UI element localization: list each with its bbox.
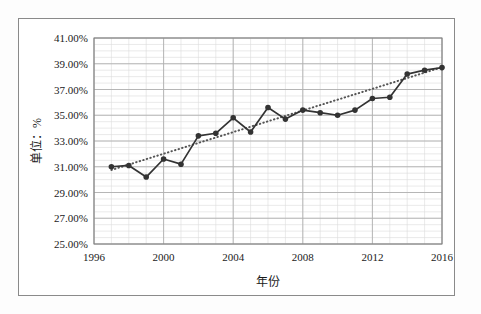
line-chart: 25.00%27.00%29.00%31.00%33.00%35.00%37.0… <box>19 19 454 295</box>
y-axis-title: 单位：% <box>29 118 44 164</box>
y-tick-label: 25.00% <box>54 238 88 250</box>
y-tick-label: 41.00% <box>54 32 88 44</box>
trendline-series <box>111 67 442 170</box>
x-tick-label: 2016 <box>431 251 454 263</box>
y-tick-label: 33.00% <box>54 135 88 147</box>
y-tick-label: 39.00% <box>54 58 88 70</box>
y-tick-label: 35.00% <box>54 109 88 121</box>
x-tick-label: 2000 <box>153 251 176 263</box>
data-series-line <box>111 68 442 177</box>
chart-figure: 25.00%27.00%29.00%31.00%33.00%35.00%37.0… <box>0 0 481 314</box>
x-tick-label: 2012 <box>361 251 383 263</box>
chart-frame: 25.00%27.00%29.00%31.00%33.00%35.00%37.0… <box>18 18 455 296</box>
x-axis-title: 年份 <box>256 275 280 289</box>
y-tick-label: 27.00% <box>54 212 88 224</box>
y-tick-label: 37.00% <box>54 84 88 96</box>
x-tick-label: 1996 <box>83 251 106 263</box>
x-tick-label: 2004 <box>222 251 245 263</box>
x-axis-tick-labels: 199620002004200820122016 <box>83 251 454 263</box>
y-tick-label: 29.00% <box>54 187 88 199</box>
y-tick-label: 31.00% <box>54 161 88 173</box>
y-axis-tick-labels: 25.00%27.00%29.00%31.00%33.00%35.00%37.0… <box>54 32 88 250</box>
x-tick-label: 2008 <box>292 251 315 263</box>
